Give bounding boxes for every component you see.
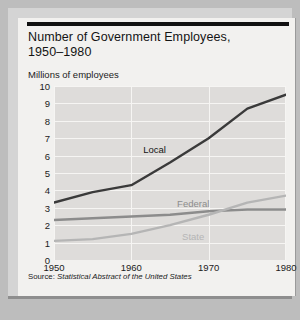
- series-line-federal: [54, 210, 286, 220]
- bottom-rule-divider: [8, 296, 292, 299]
- source-note: Source: Statistical Abstract of the Unit…: [28, 272, 192, 281]
- y-axis-unit-label: Millions of employees: [28, 69, 119, 80]
- series-label-local: Local: [143, 143, 166, 154]
- y-axis-tick-label: 4: [28, 185, 50, 196]
- y-axis: 012345678910: [28, 86, 50, 271]
- series-label-state: State: [182, 230, 204, 241]
- top-rule-divider: [27, 22, 289, 26]
- y-axis-tick-label: 1: [28, 237, 50, 248]
- series-lines: [54, 86, 286, 260]
- page-title: Number of Government Employees, 1950–198…: [28, 30, 284, 60]
- x-axis-tick-label: 1970: [198, 262, 219, 273]
- plot-area: LocalFederalState: [54, 86, 286, 260]
- y-axis-tick-label: 2: [28, 220, 50, 231]
- x-axis-tick-label: 1980: [275, 262, 296, 273]
- y-axis-tick-label: 6: [28, 150, 50, 161]
- chart-plot-wrapper: 012345678910 LocalFederalState 195019601…: [28, 86, 286, 271]
- y-axis-tick-label: 3: [28, 202, 50, 213]
- screenshot-root: Number of Government Employees, 1950–198…: [0, 0, 300, 320]
- y-axis-tick-label: 10: [28, 81, 50, 92]
- chart-card: Number of Government Employees, 1950–198…: [18, 18, 296, 296]
- y-axis-tick-label: 7: [28, 133, 50, 144]
- card-frame: Number of Government Employees, 1950–198…: [8, 8, 292, 296]
- source-prefix: Source:: [28, 272, 55, 281]
- chart-title-line-1: Number of Government Employees,: [28, 30, 231, 44]
- y-axis-tick-label: 5: [28, 168, 50, 179]
- series-label-federal: Federal: [177, 197, 209, 208]
- y-axis-tick-label: 9: [28, 98, 50, 109]
- series-line-local: [54, 95, 286, 203]
- chart-title-line-2: 1950–1980: [28, 45, 284, 60]
- y-axis-tick-label: 8: [28, 115, 50, 126]
- source-title: Statistical Abstract of the United State…: [57, 272, 192, 281]
